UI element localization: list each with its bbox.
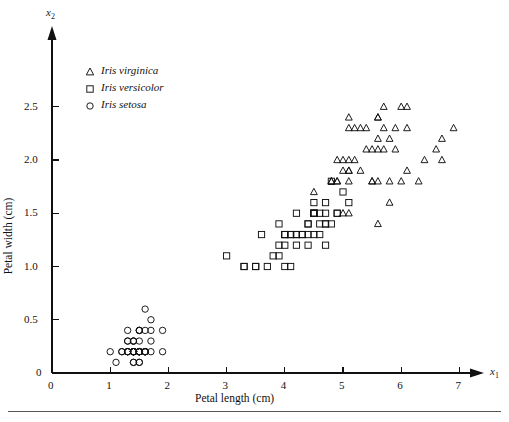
data-point-square: [282, 231, 288, 237]
data-point-square: [264, 263, 270, 269]
data-point-square: [322, 221, 328, 227]
data-point-triangle: [392, 146, 399, 152]
data-point-triangle: [386, 178, 393, 184]
x-tick-label: 1: [106, 379, 112, 391]
data-point-triangle: [404, 103, 411, 109]
y-tick-label: 2.0: [24, 153, 38, 165]
data-point-triangle: [375, 178, 382, 184]
series-iris-setosa: [107, 306, 166, 366]
y-tick-label: 0.5: [24, 313, 38, 325]
plot-canvas: [0, 0, 509, 422]
data-point-circle: [148, 338, 154, 344]
data-point-triangle: [439, 156, 446, 162]
data-point-square: [224, 253, 230, 259]
data-point-square: [299, 231, 305, 237]
data-point-square: [311, 231, 317, 237]
data-point-square: [322, 221, 328, 227]
data-point-square: [288, 231, 294, 237]
data-point-triangle: [345, 114, 352, 120]
data-point-triangle: [351, 124, 358, 130]
data-point-square: [276, 242, 282, 248]
data-point-square: [293, 242, 299, 248]
data-point-square: [293, 231, 299, 237]
legend-marker-circle: [87, 103, 93, 109]
data-point-square: [276, 221, 282, 227]
data-point-triangle: [375, 114, 382, 120]
data-point-square: [299, 231, 305, 237]
data-point-square: [253, 263, 259, 269]
data-point-triangle: [345, 178, 352, 184]
y-tick-label: 1.0: [24, 260, 38, 272]
data-point-triangle: [415, 178, 422, 184]
x-axis-variable-label: x1: [490, 365, 499, 380]
data-point-square: [258, 231, 264, 237]
data-point-square: [311, 210, 317, 216]
data-point-triangle: [310, 188, 317, 194]
scatter-plot-figure: x2 x1 Petal length (cm) Petal width (cm)…: [0, 0, 509, 422]
data-point-triangle: [404, 124, 411, 130]
data-point-square: [293, 231, 299, 237]
y-tick-label: 2.5: [24, 100, 38, 112]
data-point-square: [322, 210, 328, 216]
legend-label-iris-versicolor: Iris versicolor: [101, 81, 164, 93]
data-point-triangle: [340, 156, 347, 162]
data-point-square: [311, 200, 317, 206]
data-point-triangle: [380, 124, 387, 130]
data-point-square: [322, 200, 328, 206]
y-tick-label: 1.5: [24, 206, 38, 218]
y-axis-arrowhead: [48, 26, 57, 40]
data-point-triangle: [404, 167, 411, 173]
data-point-triangle: [439, 135, 446, 141]
data-point-square: [305, 242, 311, 248]
tick-layer: [52, 107, 459, 373]
data-points-layer: [107, 103, 457, 366]
data-point-triangle: [357, 124, 364, 130]
data-point-circle: [159, 327, 165, 333]
legend-marker-layer: [86, 68, 93, 109]
series-iris-versicolor: [224, 178, 352, 269]
data-point-square: [311, 210, 317, 216]
data-point-square: [241, 263, 247, 269]
y-axis-title: Petal width (cm): [2, 198, 14, 275]
data-point-circle: [113, 359, 119, 365]
data-point-triangle: [363, 146, 370, 152]
x-axis-arrowhead: [470, 369, 484, 378]
data-point-square: [282, 263, 288, 269]
x-axis-title: Petal length (cm): [195, 392, 274, 404]
data-point-triangle: [421, 156, 428, 162]
data-point-triangle: [375, 220, 382, 226]
data-point-square: [328, 221, 334, 227]
x-tick-label: 0: [48, 379, 54, 391]
data-point-square: [317, 210, 323, 216]
data-point-triangle: [363, 124, 370, 130]
data-point-triangle: [386, 135, 393, 141]
data-point-triangle: [369, 178, 376, 184]
x-tick-label: 2: [164, 379, 170, 391]
data-point-triangle: [345, 167, 352, 173]
data-point-triangle: [345, 210, 352, 216]
data-point-triangle: [369, 146, 376, 152]
data-point-square: [270, 253, 276, 259]
legend-label-iris-virginica: Iris virginica: [101, 64, 158, 76]
data-point-triangle: [357, 167, 364, 173]
data-point-triangle: [375, 135, 382, 141]
data-point-triangle: [375, 146, 382, 152]
data-point-square: [282, 231, 288, 237]
series-iris-virginica: [310, 103, 456, 227]
data-point-square: [282, 242, 288, 248]
data-point-triangle: [450, 124, 457, 130]
data-point-square: [253, 263, 259, 269]
data-point-square: [276, 253, 282, 259]
data-point-circle: [124, 327, 130, 333]
x-tick-label: 6: [397, 379, 403, 391]
data-point-square: [311, 210, 317, 216]
data-point-square: [305, 221, 311, 227]
x-tick-label: 5: [339, 379, 345, 391]
data-point-square: [288, 231, 294, 237]
data-point-square: [311, 210, 317, 216]
data-point-square: [317, 231, 323, 237]
data-point-triangle: [433, 146, 440, 152]
data-point-square: [346, 200, 352, 206]
data-point-square: [311, 210, 317, 216]
x-tick-label: 4: [281, 379, 287, 391]
